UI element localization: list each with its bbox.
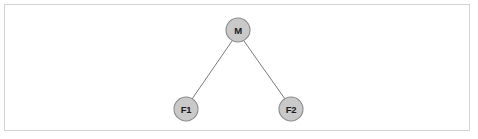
node-m-label: M xyxy=(234,25,242,36)
node-f1[interactable]: F1 xyxy=(174,97,198,121)
screenshot-root: M F1 F2 xyxy=(0,0,478,139)
node-f2[interactable]: F2 xyxy=(279,97,303,121)
edge-m-to-f1 xyxy=(192,41,232,99)
node-f2-label: F2 xyxy=(286,104,297,115)
edge-group xyxy=(192,41,285,99)
edge-m-to-f2 xyxy=(244,41,285,99)
tree-diagram-canvas: M F1 F2 xyxy=(0,0,478,139)
node-f1-label: F1 xyxy=(181,104,193,115)
node-m[interactable]: M xyxy=(226,18,250,42)
